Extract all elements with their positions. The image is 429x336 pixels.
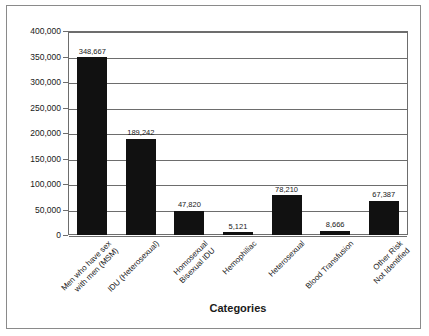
bar[interactable] [126, 139, 156, 236]
bar-value-label: 5,121 [229, 223, 248, 231]
bar-group[interactable]: 5,121 [214, 31, 263, 235]
x-axis-tick-label-line: Blood Transfusion [304, 239, 356, 291]
bar-group[interactable]: 47,820 [165, 31, 214, 235]
bar-chart: 400,000350,000300,000250,000200,000150,0… [7, 6, 422, 330]
bar[interactable] [272, 195, 302, 235]
x-axis-title: Categories [68, 302, 408, 314]
bar-group[interactable]: 67,387 [359, 31, 408, 235]
bar[interactable] [77, 57, 107, 235]
bars-layer: 348,667189,24247,8205,12178,2108,66667,3… [68, 31, 408, 235]
bar-group[interactable]: 348,667 [68, 31, 117, 235]
bar-value-label: 8,666 [326, 221, 345, 229]
bar-value-label: 78,210 [275, 186, 298, 194]
bar-value-label: 47,820 [178, 201, 201, 209]
x-axis-tick-label-line: Heterosexual [267, 239, 307, 279]
x-axis-tick-labels: Men who have sexwith men (MSM)IDU (Heter… [68, 235, 408, 301]
figure-frame: 400,000350,000300,000250,000200,000150,0… [6, 5, 421, 329]
bar-group[interactable]: 189,242 [117, 31, 166, 235]
bar-value-label: 189,242 [127, 129, 154, 137]
x-axis-tick-label-line: Hemophiliac [221, 239, 259, 277]
bar[interactable] [174, 211, 204, 235]
bar-value-label: 67,387 [372, 191, 395, 199]
bar-group[interactable]: 8,666 [311, 31, 360, 235]
bar[interactable] [369, 201, 399, 235]
bar-value-label: 348,667 [79, 48, 106, 56]
y-axis-tick-marks [7, 31, 68, 235]
bar-group[interactable]: 78,210 [262, 31, 311, 235]
